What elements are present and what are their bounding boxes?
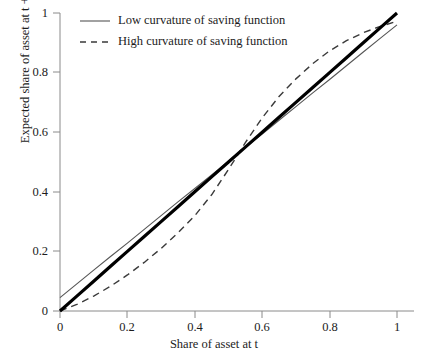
legend-label: High curvature of saving function [118,34,287,49]
legend-item-low-curvature: Low curvature of saving function [80,10,287,31]
legend-sample-solid-line-icon [80,16,110,26]
y-tick-label: 0.4 [21,185,48,200]
legend-label: Low curvature of saving function [118,13,285,28]
x-tick-label: 0 [57,320,63,335]
plot-canvas [0,0,428,362]
x-axis-ticks [60,311,397,318]
y-axis-ticks [53,13,60,311]
x-tick-label: 0.8 [322,320,338,335]
chart-legend: Low curvature of saving function High cu… [80,10,287,52]
x-tick-label: 1 [394,320,400,335]
y-tick-label: 0.2 [21,244,48,259]
legend-item-high-curvature: High curvature of saving function [80,31,287,52]
x-axis-title: Share of asset at t [0,337,428,352]
y-axis-title: Expected share of asset at t + 1 [18,0,33,171]
x-tick-label: 0.4 [187,320,203,335]
legend-sample-dashed-line-icon [80,37,110,47]
x-tick-label: 0.2 [119,320,135,335]
y-tick-label: 0 [26,304,48,319]
x-tick-label: 0.6 [254,320,270,335]
series-45-degree-line [60,13,397,311]
chart-figure: 0 0.2 0.4 0.6 0.8 1 0 0.2 0.4 0.6 0.8 1 … [0,0,428,362]
